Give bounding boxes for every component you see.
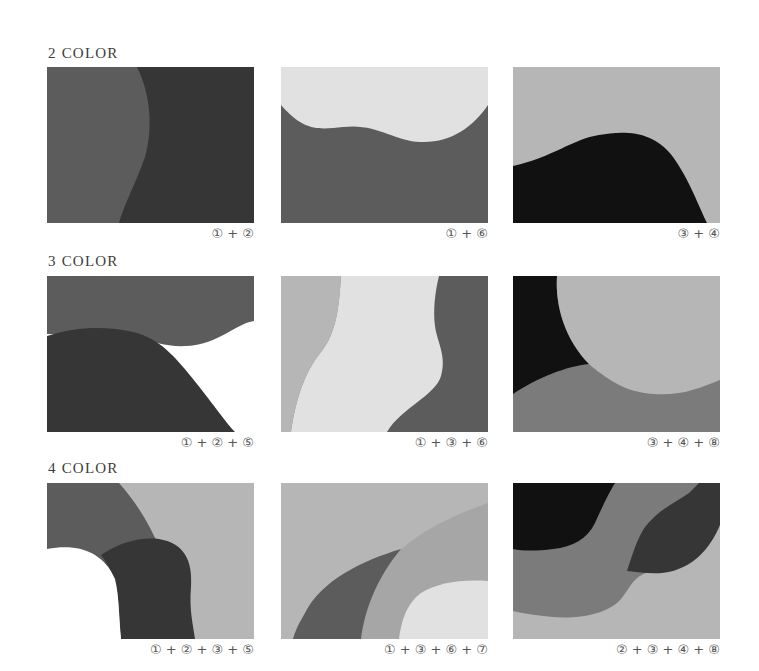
color-combination-graphic: [281, 276, 488, 432]
swatch-3-4-8: [513, 276, 720, 432]
color-combination-graphic: [47, 276, 254, 432]
swatch-1-3-6-7: [281, 483, 488, 639]
swatch-label: ① + ②: [47, 226, 254, 241]
swatch-label: ① + ⑥: [281, 226, 488, 241]
swatch-label: ③ + ④: [513, 226, 720, 241]
color-combination-graphic: [513, 67, 720, 223]
color-combination-graphic: [47, 67, 254, 223]
swatch-2-3-4-8: [513, 483, 720, 639]
color-combination-graphic: [281, 67, 488, 223]
swatch-1-2-3-5: [47, 483, 254, 639]
color-combination-graphic: [513, 483, 720, 639]
swatch-label: ③ + ④ + ⑧: [513, 435, 720, 450]
section-heading-2-color: 2 COLOR: [48, 45, 119, 62]
swatch-1-6: [281, 67, 488, 223]
section-heading-4-color: 4 COLOR: [48, 460, 119, 477]
swatch-label: ① + ② + ③ + ⑤: [47, 642, 254, 657]
swatch-1-3-6: [281, 276, 488, 432]
swatch-label: ② + ③ + ④ + ⑧: [513, 642, 720, 657]
swatch-1-2: [47, 67, 254, 223]
swatch-label: ① + ③ + ⑥: [281, 435, 488, 450]
swatch-label: ① + ② + ⑤: [47, 435, 254, 450]
color-combination-graphic: [281, 483, 488, 639]
color-combination-graphic: [47, 483, 254, 639]
section-heading-3-color: 3 COLOR: [48, 253, 119, 270]
color-combination-graphic: [513, 276, 720, 432]
swatch-label: ① + ③ + ⑥ + ⑦: [281, 642, 488, 657]
swatch-3-4: [513, 67, 720, 223]
swatch-1-2-5: [47, 276, 254, 432]
